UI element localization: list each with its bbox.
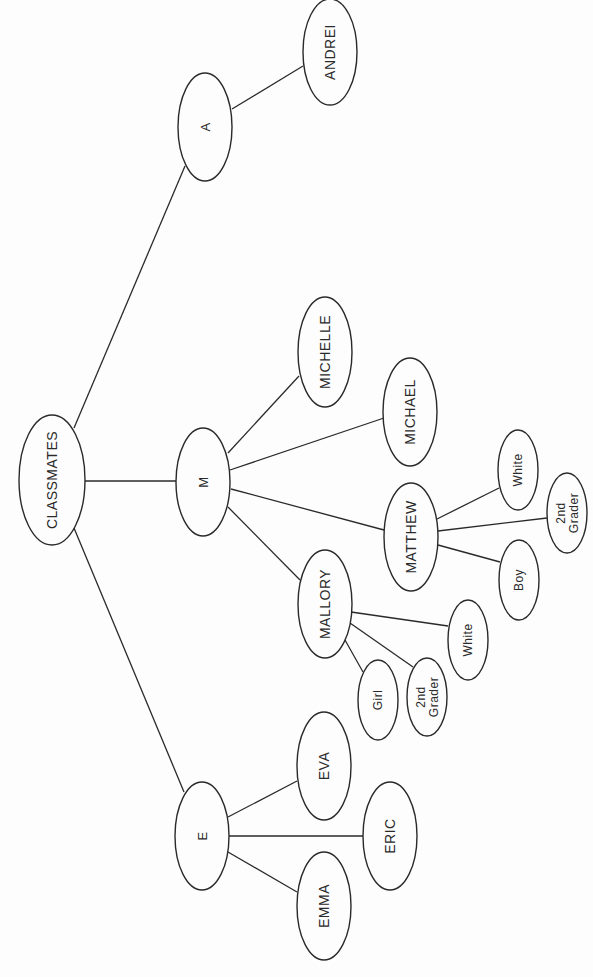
- node-matthew-boy: Boy: [499, 540, 539, 620]
- node-label: EVA: [316, 752, 332, 781]
- node-andrei: ANDREI: [303, 0, 357, 105]
- classmates-tree-diagram: CLASSMATESAANDREIMMICHELLEMICHAELMATTHEW…: [0, 0, 593, 977]
- node-label: EMMA: [316, 884, 332, 928]
- edge-classmates-to-a: [74, 166, 185, 428]
- node-label: ERIC: [382, 818, 398, 853]
- node-label: MICHELLE: [317, 315, 333, 389]
- edge-m-to-mallory: [228, 507, 300, 580]
- edge-a-to-andrei: [232, 66, 303, 109]
- edge-matthew-to-matthew-2nd-grader: [438, 518, 547, 531]
- node-eric: ERIC: [363, 782, 417, 890]
- node-mallory-white: White: [448, 600, 488, 680]
- node-label: A: [198, 122, 213, 131]
- node-label: CLASSMATES: [44, 431, 60, 529]
- node-label: E: [195, 831, 210, 840]
- node-label: MATTHEW: [403, 500, 419, 574]
- node-label: White: [511, 453, 525, 486]
- node-matthew-white: White: [498, 430, 538, 510]
- node-label: White: [461, 623, 475, 656]
- node-label: Boy: [512, 569, 526, 591]
- edge-m-to-matthew: [231, 489, 384, 530]
- edge-mallory-to-mallory-girl: [345, 640, 363, 672]
- node-m: M: [176, 428, 230, 536]
- node-label: MICHAEL: [402, 379, 418, 445]
- node-matthew: MATTHEW: [384, 483, 438, 591]
- edge-matthew-to-matthew-boy: [438, 545, 500, 562]
- node-matthew-2nd-grader: 2ndGrader: [547, 473, 587, 553]
- node-emma: EMMA: [297, 852, 351, 960]
- node-michael: MICHAEL: [383, 358, 437, 466]
- node-mallory: MALLORY: [298, 550, 352, 658]
- node-classmates: CLASSMATES: [19, 415, 85, 545]
- node-mallory-2nd-grader: 2ndGrader: [407, 658, 447, 736]
- node-eva: EVA: [297, 712, 351, 820]
- node-mallory-girl: Girl: [358, 660, 398, 740]
- node-label: ANDREI: [322, 24, 338, 80]
- tree-nodes: CLASSMATESAANDREIMMICHELLEMICHAELMATTHEW…: [19, 0, 587, 960]
- node-label: M: [196, 476, 211, 487]
- edge-classmates-to-e: [74, 528, 184, 792]
- node-michelle: MICHELLE: [298, 297, 352, 407]
- edge-mallory-to-mallory-white: [351, 612, 448, 626]
- edge-e-to-emma: [228, 852, 297, 892]
- edge-matthew-to-matthew-white: [437, 488, 499, 519]
- node-e: E: [175, 782, 229, 890]
- edge-m-to-michelle: [228, 376, 299, 453]
- node-label: MALLORY: [317, 569, 333, 639]
- edge-e-to-eva: [228, 781, 297, 817]
- node-a: A: [178, 73, 232, 181]
- node-label: Girl: [371, 690, 385, 711]
